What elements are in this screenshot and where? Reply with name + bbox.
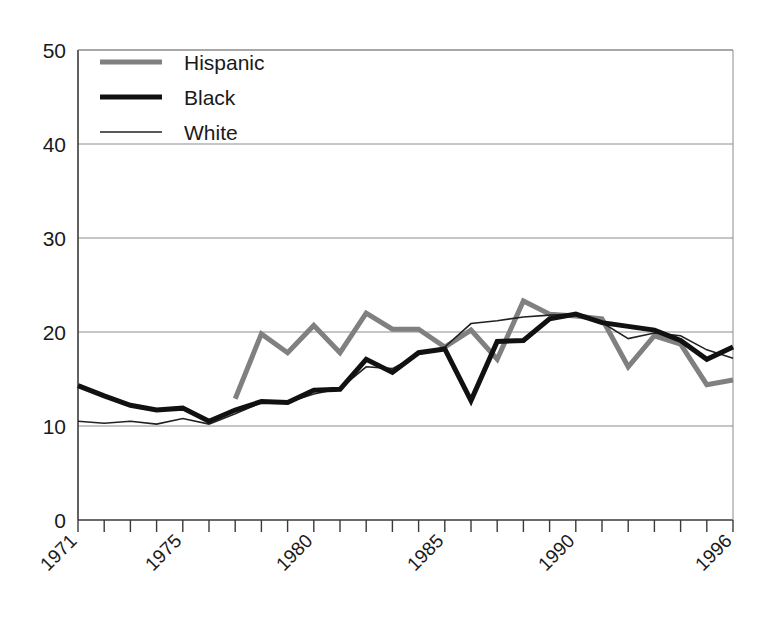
x-tick-label-1990: 1990 <box>534 530 579 575</box>
x-axis-tick-labels: 197119751980198519901996 <box>36 530 736 575</box>
chart-container: 01020304050 197119751980198519901996 His… <box>0 0 772 623</box>
y-tick-label-0: 0 <box>54 509 66 532</box>
x-tick-label-1996: 1996 <box>691 530 736 575</box>
legend-label-white: White <box>184 121 238 144</box>
gridlines-group <box>78 50 733 426</box>
line-chart: 01020304050 197119751980198519901996 His… <box>0 0 772 623</box>
y-tick-label-30: 30 <box>43 227 66 250</box>
data-series-group <box>78 301 733 424</box>
legend-label-black: Black <box>184 86 236 109</box>
series-line-hispanic <box>235 301 733 399</box>
y-tick-label-10: 10 <box>43 415 66 438</box>
x-tick-label-1980: 1980 <box>272 530 317 575</box>
plot-frame <box>78 50 733 520</box>
y-tick-label-20: 20 <box>43 321 66 344</box>
legend-label-hispanic: Hispanic <box>184 51 265 74</box>
y-axis-tick-labels: 01020304050 <box>43 39 66 532</box>
x-tick-label-1971: 1971 <box>36 530 81 575</box>
legend: HispanicBlackWhite <box>100 51 265 144</box>
x-tick-marks <box>78 520 733 532</box>
y-tick-label-40: 40 <box>43 133 66 156</box>
x-tick-label-1975: 1975 <box>141 530 186 575</box>
y-tick-label-50: 50 <box>43 39 66 62</box>
x-tick-label-1985: 1985 <box>403 530 448 575</box>
